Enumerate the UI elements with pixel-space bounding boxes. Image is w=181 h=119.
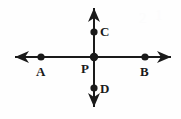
point-dot-D [90,84,97,91]
point-label-A: A [36,65,45,78]
point-label-P: P [81,62,89,75]
scan-artifact-2-icon: 1 [155,7,163,24]
lines-and-points-canvas [0,0,181,119]
geometry-figure: A P B C D 2 1 [0,0,181,119]
point-label-C: C [100,25,109,38]
point-dot-C [90,28,97,35]
point-dot-B [141,53,148,60]
scan-artifact-1-icon: 2 [139,10,147,27]
point-dot-A [37,53,44,60]
point-dot-P [90,53,98,61]
point-label-D: D [100,82,109,95]
point-label-B: B [140,65,149,78]
